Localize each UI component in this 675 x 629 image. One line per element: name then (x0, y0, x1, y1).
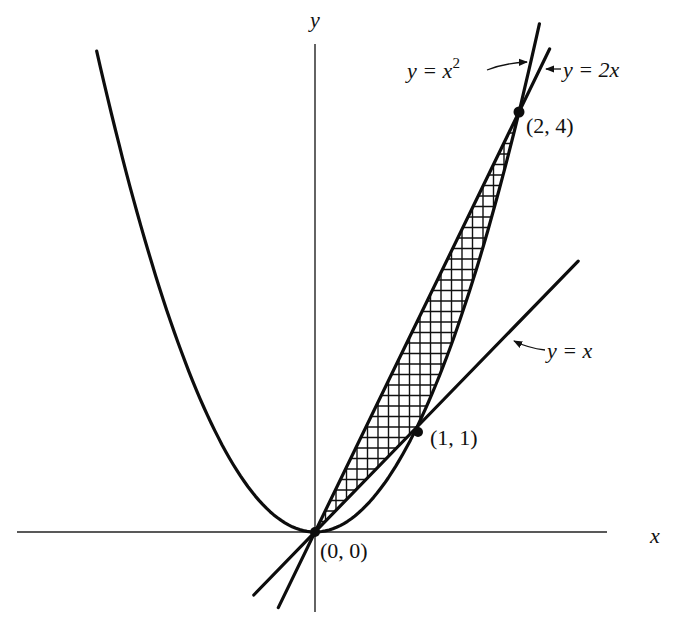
point-1-1 (413, 427, 423, 437)
point-label-2-4: (2, 4) (526, 113, 574, 138)
point-label-1-1: (1, 1) (430, 425, 478, 450)
point-origin (310, 527, 320, 537)
function-graph-figure: x y (0, 0) (1, 1) (2, 4) y = x2 y = 2x y… (0, 0, 675, 629)
curve-label-2x: y = 2x (561, 57, 620, 82)
point-label-origin: (0, 0) (320, 538, 368, 563)
y-axis-label: y (308, 7, 320, 32)
curve-label-x: y = x (545, 338, 593, 363)
x-axis-label: x (649, 523, 660, 548)
parabola-curve (97, 24, 540, 532)
curve-label-parabola: y = x2 (405, 55, 460, 83)
leader-parabola (487, 62, 527, 70)
point-2-4 (514, 107, 525, 118)
leader-x (514, 341, 545, 350)
line-y-equals-2x (278, 49, 549, 608)
